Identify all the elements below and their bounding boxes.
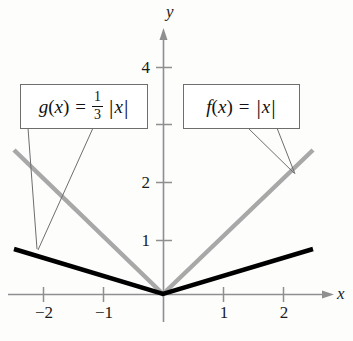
g-callout-leader-left: [28, 128, 37, 249]
y-axis-label: y: [166, 2, 174, 22]
f-callout-leader-right: [277, 128, 295, 174]
y-tick-label-1: 1: [130, 231, 150, 251]
absolute-value-functions-figure: y x −2 −1 1 2 1 2 4 g ( x ) = 1 3 | x |: [0, 0, 353, 341]
f-absolute-value-group: | x |: [255, 96, 276, 118]
f-arg: x: [218, 97, 226, 116]
y-axis-arrowhead: [160, 28, 168, 40]
g-close-paren: ): [63, 97, 69, 116]
f-function-callout-box: f ( x ) = | x |: [183, 84, 300, 129]
f-equals: =: [239, 97, 250, 116]
x-tick-label-minus1: −1: [88, 303, 120, 323]
y-tick-label-2: 2: [130, 173, 150, 193]
x-tick-label-minus2: −2: [28, 303, 60, 323]
g-arg: x: [55, 97, 63, 116]
fraction-denominator: 3: [92, 108, 103, 123]
f-close-paren: ): [226, 97, 232, 116]
one-third-fraction: 1 3: [92, 90, 103, 122]
g-abs-close-bar: |: [123, 96, 129, 118]
g-abs-variable: x: [114, 97, 122, 116]
fraction-numerator: 1: [92, 90, 103, 105]
g-absolute-value-group: | x |: [108, 96, 129, 118]
g-callout-leader-right: [38, 128, 93, 250]
x-axis-arrowhead: [322, 291, 334, 299]
g-fn-name: g: [39, 97, 49, 116]
x-tick-label-2: 2: [272, 303, 296, 323]
g-function-formula: g ( x ) = 1 3 | x |: [39, 90, 130, 122]
x-axis-label: x: [337, 284, 345, 304]
f-abs-close-bar: |: [270, 96, 276, 118]
graph-canvas: [0, 0, 353, 341]
g-function-callout-box: g ( x ) = 1 3 | x |: [20, 84, 148, 129]
x-tick-label-1: 1: [212, 303, 236, 323]
y-tick-label-4: 4: [130, 58, 150, 78]
f-function-formula: f ( x ) = | x |: [206, 96, 276, 118]
f-callout-leader-left: [248, 128, 294, 173]
g-equals: =: [75, 97, 86, 116]
f-abs-variable: x: [262, 97, 270, 116]
